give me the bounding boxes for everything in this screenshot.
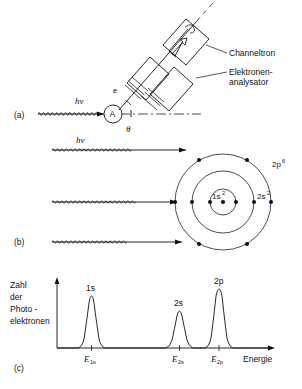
nucleus — [221, 200, 225, 204]
electron-dot — [197, 158, 201, 162]
panel-b-group: (b) hν — [14, 135, 285, 250]
photon-beam-top — [52, 147, 186, 152]
orbital-label-2p: 2p 6 — [272, 158, 285, 169]
panel-a-photon-beam — [38, 111, 104, 116]
photon-beam-middle — [52, 199, 177, 204]
panel-a-electron-trajectory — [119, 3, 213, 110]
tick-label-e2p: E 2p — [210, 354, 223, 365]
spectrum-curve — [57, 289, 272, 348]
svg-text:Photo -: Photo - — [10, 304, 38, 314]
svg-text:2: 2 — [222, 190, 225, 196]
peak-label-1s: 1s — [86, 283, 95, 293]
panel-c-label: (c) — [14, 363, 24, 373]
peak-label-2p: 2p — [214, 276, 224, 286]
svg-text:E: E — [171, 354, 178, 364]
panel-a-label: (a) — [14, 110, 25, 120]
svg-text:6: 6 — [282, 158, 285, 164]
analyser-label-line2: analysator — [229, 77, 268, 87]
channeltron-detector — [163, 19, 209, 65]
svg-text:2p: 2p — [272, 160, 281, 169]
angle-label: θ — [126, 124, 131, 134]
svg-text:Zahl: Zahl — [10, 280, 27, 290]
panel-b-photon-label: hν — [76, 135, 85, 145]
tick-label-e1s: E 1s — [83, 354, 96, 365]
atom-label: A — [110, 109, 116, 119]
electron-analyser — [125, 57, 193, 111]
analyser-label-line1: Elektronen- — [229, 67, 273, 77]
svg-text:2s: 2s — [178, 359, 184, 365]
electron-dot — [269, 200, 273, 204]
panel-a-leader-lines — [196, 45, 227, 78]
electron-dot — [252, 200, 256, 204]
orbital-label-1s: 1s 2 — [212, 190, 225, 201]
peak-label-2s: 2s — [174, 298, 183, 308]
svg-text:der: der — [10, 292, 22, 302]
panel-b-photon-beams — [52, 147, 186, 244]
svg-text:2s: 2s — [257, 192, 265, 201]
y-axis-label: Zahl der Photo - elektronen — [10, 280, 50, 326]
electron-dot — [173, 200, 177, 204]
panel-a-angle-marker: θ — [126, 101, 132, 135]
electron-dot — [197, 242, 201, 246]
panel-b-label: (b) — [14, 237, 25, 247]
photon-beam-bottom — [52, 239, 182, 244]
panel-c-group: (c) Zahl der Photo - elektronen 1s 2s 2p — [10, 276, 275, 373]
electron-dot — [190, 200, 194, 204]
svg-text:E: E — [210, 354, 217, 364]
panel-a-photon-label: hν — [75, 96, 84, 106]
xps-figure: (a) hν A e θ — [0, 0, 302, 389]
panel-a-group: (a) hν A e θ — [14, 3, 276, 134]
svg-text:2p: 2p — [217, 359, 223, 365]
svg-text:1s: 1s — [90, 359, 96, 365]
channeltron-label: Channeltron — [229, 48, 276, 58]
bohr-atom: 1s 2 2s 2 2p 6 — [173, 154, 285, 250]
tick-label-e2s: E 2s — [171, 354, 184, 365]
svg-text:1s: 1s — [212, 192, 220, 201]
electron-label: e — [113, 86, 117, 95]
x-axis-label: Energie — [243, 354, 273, 364]
electron-dot — [234, 200, 238, 204]
svg-text:2: 2 — [267, 190, 270, 196]
panel-a-atom: A — [104, 105, 122, 123]
svg-text:E: E — [83, 354, 90, 364]
orbital-label-2s: 2s 2 — [257, 190, 270, 201]
svg-text:elektronen: elektronen — [10, 316, 50, 326]
electron-dot — [245, 242, 249, 246]
electron-dot — [245, 158, 249, 162]
